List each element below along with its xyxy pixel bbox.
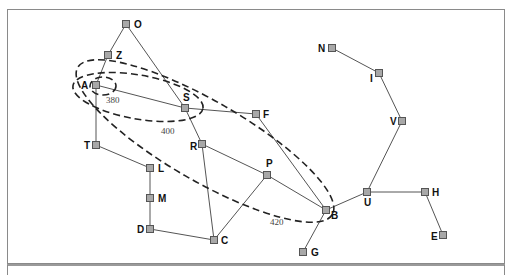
node-label: G bbox=[311, 247, 319, 258]
node-label: T bbox=[84, 140, 90, 151]
node-label: F bbox=[263, 109, 269, 120]
node-label: A bbox=[81, 80, 88, 91]
node-square-icon bbox=[376, 70, 383, 77]
node-label: O bbox=[134, 19, 142, 30]
node-square-icon bbox=[323, 207, 330, 214]
node-label: U bbox=[364, 197, 371, 208]
node-square-icon bbox=[422, 189, 429, 196]
node-square-icon bbox=[147, 226, 154, 233]
node-label: B bbox=[331, 210, 338, 221]
node-S: S bbox=[182, 92, 191, 112]
node-label: L bbox=[158, 163, 164, 174]
node-square-icon bbox=[329, 45, 336, 52]
node-square-icon bbox=[182, 105, 189, 112]
node-square-icon bbox=[264, 172, 271, 179]
node-square-icon bbox=[399, 118, 406, 125]
contour-label-420: 420 bbox=[270, 217, 284, 227]
diagram-frame bbox=[8, 10, 505, 264]
node-label: C bbox=[221, 235, 228, 246]
node-square-icon bbox=[147, 165, 154, 172]
node-label: M bbox=[158, 193, 166, 204]
node-label: Z bbox=[116, 50, 122, 61]
node-square-icon bbox=[93, 82, 100, 89]
node-label: I bbox=[370, 73, 373, 84]
node-label: P bbox=[266, 158, 273, 169]
node-label: S bbox=[183, 92, 190, 103]
node-square-icon bbox=[253, 111, 260, 118]
node-label: D bbox=[137, 224, 144, 235]
node-label: N bbox=[318, 43, 325, 54]
node-label: R bbox=[190, 141, 198, 152]
node-label: V bbox=[390, 116, 397, 127]
node-square-icon bbox=[123, 21, 130, 28]
node-label: H bbox=[432, 187, 439, 198]
node-square-icon bbox=[199, 141, 206, 148]
contour-label-400: 400 bbox=[161, 126, 175, 136]
node-U: U bbox=[364, 189, 372, 209]
node-square-icon bbox=[440, 232, 447, 239]
node-square-icon bbox=[300, 249, 307, 256]
node-square-icon bbox=[105, 52, 112, 59]
node-square-icon bbox=[364, 189, 371, 196]
node-square-icon bbox=[211, 237, 218, 244]
graph-diagram: 380400420 OZASFTRLPMDCBUHEGNIV bbox=[0, 0, 513, 275]
node-square-icon bbox=[147, 195, 154, 202]
contour-label-380: 380 bbox=[106, 95, 120, 105]
node-square-icon bbox=[93, 142, 100, 149]
node-label: E bbox=[431, 231, 438, 242]
